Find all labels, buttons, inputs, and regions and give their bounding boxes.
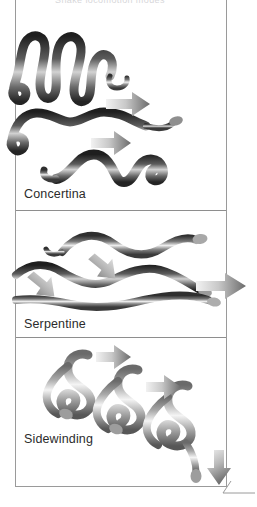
concertina-snake-3 (44, 155, 163, 183)
snake-head (191, 469, 202, 483)
section-label-concertina: Concertina (24, 187, 86, 201)
section-label-serpentine: Serpentine (24, 317, 86, 331)
section-divider-2 (16, 337, 226, 338)
snake-locomotion-figure: Snake locomotion modes (0, 0, 257, 507)
serpentine-arrow-2 (27, 270, 55, 299)
section-sidewinding-art (47, 345, 231, 485)
illustration-layer (0, 0, 257, 507)
sidewinding-snake-3 (147, 385, 202, 483)
sidewinding-arrow-1 (96, 345, 131, 369)
serpentine-snake-3 (16, 296, 222, 308)
concertina-snake-1 (13, 36, 127, 102)
section-divider-1 (16, 210, 226, 211)
serpentine-snake-1 (46, 233, 208, 254)
section-serpentine-art (16, 233, 246, 308)
section-label-sidewinding: Sidewinding (24, 432, 93, 446)
sidewinding-snake-2 (97, 369, 141, 436)
section-concertina-art (11, 36, 184, 182)
sidewinding-arrow-2 (146, 375, 181, 399)
serpentine-arrow-1 (88, 252, 116, 281)
page-corner-mark (221, 473, 257, 495)
sidewinding-snake-1 (47, 354, 91, 421)
